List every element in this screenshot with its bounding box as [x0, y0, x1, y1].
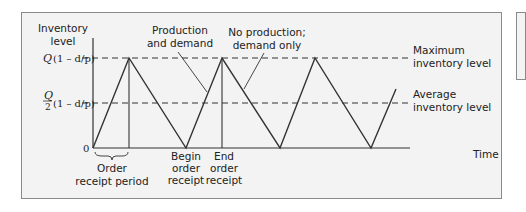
no-production-annotation-line1: No production;: [228, 26, 306, 38]
end-receipt-line1: End: [214, 150, 234, 162]
order-period-line1: Order: [97, 162, 128, 174]
order-period-brace: [95, 152, 128, 160]
begin-receipt-line1: Begin: [171, 150, 201, 162]
zero-tick: 0: [83, 143, 89, 154]
order-period-line2: receipt period: [75, 175, 148, 187]
begin-receipt-line3: receipt: [168, 174, 204, 186]
end-receipt-line2: order: [210, 162, 239, 174]
max-annotation-line1: Maximum: [413, 44, 465, 56]
production-annotation-line2: and demand: [147, 37, 213, 49]
max-tick-expr: (1 – d/p): [53, 53, 95, 64]
avg-tick-numerator: Q: [44, 89, 53, 102]
max-tick-var: Q: [43, 52, 52, 65]
avg-tick-expr: (1 – d/p): [53, 98, 95, 109]
end-receipt-line3: receipt: [206, 174, 242, 186]
x-axis-label: Time: [472, 148, 499, 160]
avg-annotation-line2: inventory level: [413, 101, 491, 113]
begin-receipt-line2: order: [172, 162, 201, 174]
y-axis-label-line2: level: [51, 35, 76, 47]
no-production-annotation-line2: demand only: [233, 39, 302, 51]
max-annotation-line2: inventory level: [413, 57, 491, 69]
avg-annotation-line1: Average: [413, 88, 456, 100]
avg-tick-denominator: 2: [45, 102, 51, 112]
y-axis-label-line1: Inventory: [38, 22, 88, 34]
production-annotation-line1: Production: [152, 24, 208, 36]
